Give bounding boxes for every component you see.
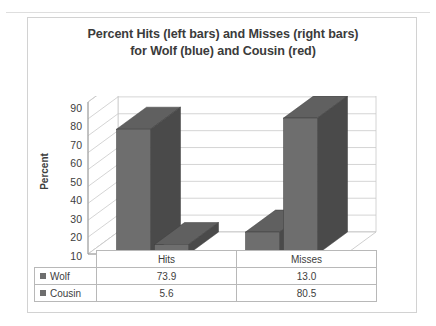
chart-title-line-1: Percent Hits (left bars) and Misses (rig… <box>28 26 418 43</box>
column-header-hits: Hits <box>97 251 237 268</box>
legend-label-wolf: Wolf <box>50 271 70 282</box>
cell-cousin-misses: 80.5 <box>237 285 377 302</box>
legend-row-cousin: Cousin <box>35 285 97 302</box>
chart-title-line-2: for Wolf (blue) and Cousin (red) <box>28 43 418 60</box>
bar-side-face <box>318 96 348 254</box>
table-row: Wolf 73.9 13.0 <box>35 268 377 285</box>
cell-cousin-hits: 5.6 <box>97 285 237 302</box>
chart-data-table: Hits Misses Wolf 73.9 13.0 Cousin 5.6 80… <box>34 250 377 302</box>
clipped-text-fragment: · ·· ·· <box>0 0 436 8</box>
table-body: Wolf 73.9 13.0 Cousin 5.6 80.5 <box>35 268 377 302</box>
cell-wolf-misses: 13.0 <box>237 268 377 285</box>
y-axis-tick-label: 70 <box>54 140 82 150</box>
y-axis-tick-label: 90 <box>54 103 82 113</box>
clipped-text-glyphs: · ·· ·· <box>70 0 118 3</box>
cell-wolf-hits: 73.9 <box>97 268 237 285</box>
y-axis-tick-label: 30 <box>54 214 82 224</box>
bar-front-face <box>284 118 318 254</box>
legend-label-cousin: Cousin <box>50 288 81 299</box>
chart-title: Percent Hits (left bars) and Misses (rig… <box>28 26 418 60</box>
table-row: Cousin 5.6 80.5 <box>35 285 377 302</box>
legend-swatch-cousin-icon <box>40 290 46 296</box>
y-axis-title: Percent <box>39 137 50 207</box>
y-axis-tick-label: 40 <box>54 195 82 205</box>
table-corner-cell <box>35 251 97 268</box>
legend-swatch-wolf-icon <box>40 273 46 279</box>
top-divider-rule <box>6 12 430 13</box>
legend-row-wolf: Wolf <box>35 268 97 285</box>
table-header-row: Hits Misses <box>35 251 377 268</box>
y-axis-tick-labels: 9080706050403020100 <box>54 103 82 269</box>
table-header: Hits Misses <box>35 251 377 268</box>
y-axis-tick-label: 20 <box>54 232 82 242</box>
bar-front-face <box>117 129 151 254</box>
y-axis-tick-label: 50 <box>54 177 82 187</box>
chart-container: Percent Hits (left bars) and Misses (rig… <box>27 17 417 313</box>
column-header-misses: Misses <box>237 251 377 268</box>
y-axis-tick-label: 80 <box>54 121 82 131</box>
y-axis-tick-label: 60 <box>54 158 82 168</box>
